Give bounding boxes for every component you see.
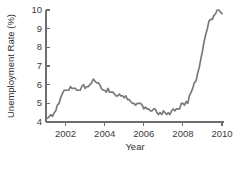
x-tick-label: 2006 — [133, 128, 154, 139]
unemployment-rate-line — [46, 10, 222, 118]
y-tick-label: 5 — [37, 97, 42, 108]
unemployment-rate-chart: 45678910 20022004200620082010 Unemployme… — [0, 0, 242, 175]
x-axis-ticks: 20022004200620082010 — [55, 122, 233, 139]
y-tick-label: 6 — [37, 79, 42, 90]
y-tick-label: 9 — [37, 23, 42, 34]
y-axis-title: Unemployment Rate (%) — [5, 14, 16, 118]
x-tick-label: 2008 — [172, 128, 193, 139]
y-axis-ticks: 45678910 — [31, 4, 50, 127]
x-tick-label: 2004 — [94, 128, 115, 139]
y-tick-label: 10 — [31, 4, 42, 15]
y-tick-label: 8 — [37, 41, 42, 52]
x-tick-label: 2002 — [55, 128, 76, 139]
y-tick-label: 7 — [37, 60, 42, 71]
chart-svg: 45678910 20022004200620082010 Unemployme… — [0, 0, 242, 175]
x-tick-label: 2010 — [211, 128, 232, 139]
x-axis-title: Year — [125, 141, 144, 152]
y-tick-label: 4 — [37, 116, 42, 127]
